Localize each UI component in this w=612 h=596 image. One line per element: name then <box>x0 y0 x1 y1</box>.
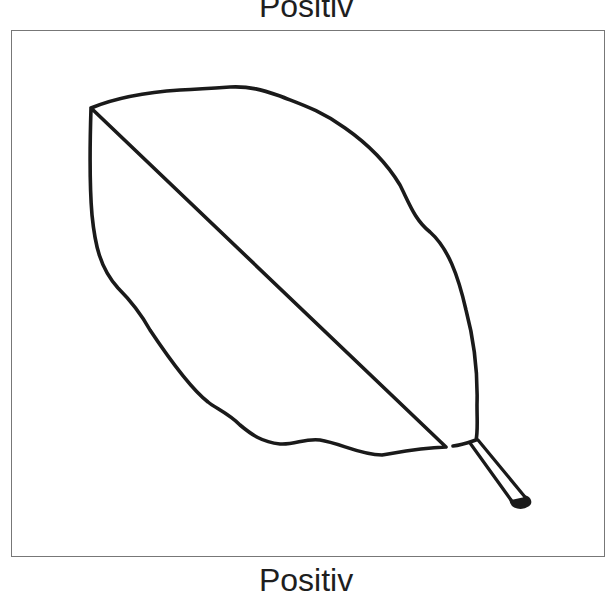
bottom-label: Positiv <box>0 560 612 596</box>
leaf-drawing <box>0 0 612 596</box>
leaf-stem <box>470 440 530 507</box>
leaf-outline <box>90 87 477 455</box>
